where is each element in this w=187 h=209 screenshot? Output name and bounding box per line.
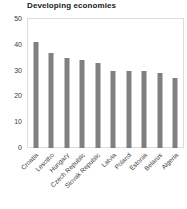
y-axis: 01020304050 [0, 18, 25, 148]
y-tick-label: 40 [14, 40, 22, 47]
bar[interactable] [80, 60, 85, 148]
x-axis-labels: CroatiaLesothoHungaryCzech RepublicSlova… [28, 150, 183, 208]
y-tick-label: 20 [14, 92, 22, 99]
bar-slot [152, 19, 168, 148]
bar-slot [28, 19, 44, 148]
bar-slot [75, 19, 91, 148]
bar-slot [168, 19, 184, 148]
bar[interactable] [142, 71, 147, 148]
bar-slot [90, 19, 106, 148]
y-tick-label: 30 [14, 66, 22, 73]
bar-slot [106, 19, 122, 148]
bar[interactable] [126, 71, 131, 148]
bar[interactable] [64, 58, 69, 148]
bar-slot [137, 19, 153, 148]
bar[interactable] [49, 53, 54, 148]
bar-slot [44, 19, 60, 148]
bar-slot [121, 19, 137, 148]
bar-slot [59, 19, 75, 148]
x-label-slot: Algeria [168, 150, 184, 208]
chart-title: Developing economies [27, 1, 116, 10]
bar[interactable] [111, 71, 116, 148]
developing-economies-bar-chart: Developing economies 01020304050 Croatia… [0, 0, 187, 209]
bars-layer [28, 19, 183, 148]
bar[interactable] [95, 63, 100, 148]
y-tick-label: 50 [14, 15, 22, 22]
bar[interactable] [33, 42, 38, 148]
bar[interactable] [157, 73, 162, 148]
bar[interactable] [173, 78, 178, 148]
y-tick-label: 10 [14, 118, 22, 125]
y-tick-label: 0 [18, 144, 22, 151]
